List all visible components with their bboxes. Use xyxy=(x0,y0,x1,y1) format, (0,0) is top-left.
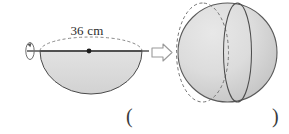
hemisphere-dashed-rim xyxy=(40,37,142,51)
sphere-group xyxy=(177,3,278,102)
geometry-illustration xyxy=(0,0,289,134)
double-right-arrow-icon xyxy=(152,44,172,61)
answer-close-paren: ) xyxy=(272,106,279,126)
center-dot xyxy=(87,49,92,54)
hemisphere-group xyxy=(26,37,149,94)
hemisphere-body xyxy=(40,51,142,94)
diameter-label: 36 cm xyxy=(56,23,118,38)
figure-panel: 36 cm ( ) xyxy=(0,0,289,134)
answer-open-paren: ( xyxy=(126,106,133,126)
